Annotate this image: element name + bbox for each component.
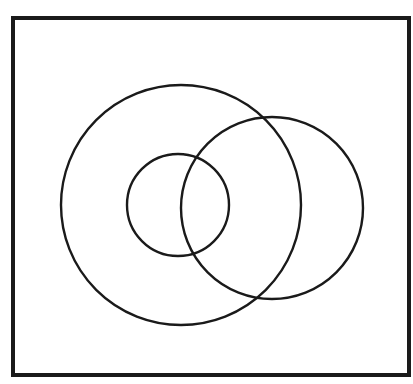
figure-container: [0, 0, 413, 384]
circles-diagram: [0, 0, 413, 384]
